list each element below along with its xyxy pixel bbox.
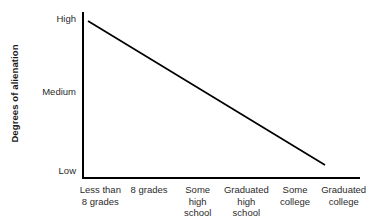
x-category-label-line: Some — [173, 184, 222, 196]
x-category-label-line: 8 grades — [125, 184, 174, 196]
x-category-label-line: high — [222, 196, 271, 208]
x-category-label-line: 8 grades — [76, 196, 125, 208]
x-category-label-line: college — [319, 196, 368, 208]
x-category-label-line: Graduated — [319, 184, 368, 196]
x-category-label-line: Graduated — [222, 184, 271, 196]
x-axis-labels: Less than8 grades 8 grades Somehighschoo… — [76, 184, 368, 219]
x-category-label-line: school — [222, 207, 271, 219]
x-category-label-line: school — [173, 207, 222, 219]
x-category-label-line: Less than — [76, 184, 125, 196]
x-category-label-line: college — [271, 196, 320, 208]
x-category-label: Somecollege — [271, 184, 320, 207]
x-category-label: Graduatedcollege — [319, 184, 368, 207]
x-category-label-line: high — [173, 196, 222, 208]
x-category-label: 8 grades — [125, 184, 174, 196]
x-category-label: Graduatedhighschool — [222, 184, 271, 219]
x-category-label-line: Some — [271, 184, 320, 196]
x-category-label: Somehighschool — [173, 184, 222, 219]
x-category-label: Less than8 grades — [76, 184, 125, 207]
trend-line — [88, 21, 325, 165]
chart-figure: Degrees of alienation High Medium Low Le… — [0, 0, 370, 223]
